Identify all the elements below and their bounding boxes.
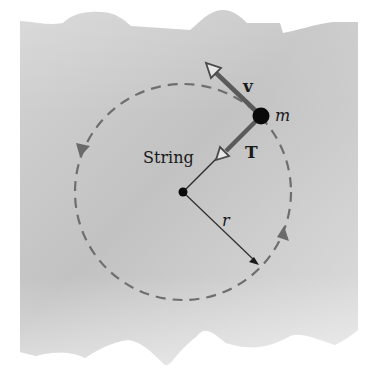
mass-label: m xyxy=(275,106,290,125)
radius-label: r xyxy=(222,211,231,230)
center-pivot xyxy=(179,188,188,197)
velocity-label: v xyxy=(242,76,254,96)
tension-label: T xyxy=(245,142,258,162)
circular-motion-diagram: String v T m r xyxy=(0,0,377,380)
surface-sheet xyxy=(20,10,358,365)
string-label: String xyxy=(143,148,194,167)
mass-ball xyxy=(253,108,270,125)
